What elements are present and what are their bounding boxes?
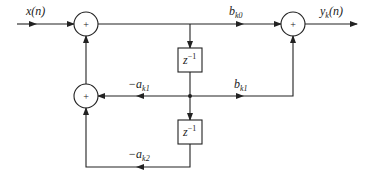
output-label: yk(n) bbox=[319, 4, 343, 20]
delay-block-1: z−1 bbox=[178, 48, 202, 72]
adder-top-left: + bbox=[74, 12, 98, 36]
plus-symbol: + bbox=[290, 19, 296, 30]
gain-b-k1-label: bk1 bbox=[234, 77, 248, 93]
gain-neg-a-k1-label: −ak1 bbox=[128, 77, 150, 93]
gain-neg-a-k2-label: −ak2 bbox=[128, 147, 150, 163]
block-diagram: x(n) + bk0 + yk(n) z−1 −ak1 bk1 bbox=[0, 0, 374, 179]
input-label: x(n) bbox=[25, 4, 45, 18]
gain-b-k0-label: bk0 bbox=[229, 4, 243, 20]
delay-block-2: z−1 bbox=[178, 120, 202, 144]
adder-top-right: + bbox=[281, 12, 305, 36]
adder-mid-left: + bbox=[74, 84, 98, 108]
plus-symbol: + bbox=[83, 91, 89, 102]
plus-symbol: + bbox=[83, 19, 89, 30]
